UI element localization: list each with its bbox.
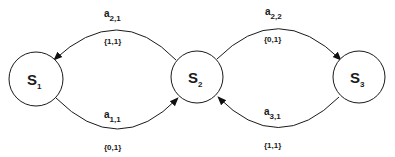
transition-label-a22: a2,2 {0,1} <box>264 6 282 44</box>
transition-label-a11: a1,1 {0,1} <box>104 109 121 152</box>
svg-text:a2,1: a2,1 <box>104 8 121 23</box>
svg-text:{0,1}: {0,1} <box>104 143 121 152</box>
svg-text:a1,1: a1,1 <box>104 109 121 124</box>
state-s1: S1 <box>9 52 63 106</box>
transition-arc-s1-s2 <box>56 98 178 129</box>
state-s3: S3 <box>333 51 385 103</box>
transition-arc-s2-s3 <box>217 29 341 60</box>
svg-text:a2,2: a2,2 <box>265 6 282 21</box>
svg-text:a3,1: a3,1 <box>264 106 281 121</box>
svg-text:{0,1}: {0,1} <box>264 35 281 44</box>
transition-label-a21: a2,1 {1,1} <box>104 8 121 46</box>
svg-text:{1,1}: {1,1} <box>264 141 281 150</box>
state-diagram: S1 S2 S3 a2,1 {1,1} a1,1 {0,1} a2,2 {0,1… <box>0 0 395 157</box>
svg-text:{1,1}: {1,1} <box>104 37 121 46</box>
state-s2: S2 <box>171 51 223 103</box>
transition-label-a31: a3,1 {1,1} <box>264 106 281 150</box>
